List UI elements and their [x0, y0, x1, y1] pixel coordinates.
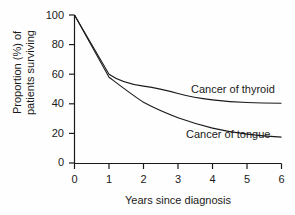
x-tick-label-0: 0 — [68, 174, 82, 185]
y-tick-label-0: 0 — [38, 157, 64, 168]
x-axis-title: Years since diagnosis — [74, 194, 282, 206]
y-tick-label-100: 100 — [38, 10, 64, 21]
x-tick-label-2: 2 — [137, 174, 151, 185]
x-axis-ticks — [75, 164, 282, 170]
x-tick-label-4: 4 — [206, 174, 220, 185]
y-axis-ticks — [69, 15, 75, 163]
series-label-tongue: Cancer of tongue — [186, 128, 270, 140]
series-label-thyroid: Cancer of thyroid — [191, 83, 275, 95]
y-axis-title-line1: Proportion (%) of — [11, 0, 24, 148]
x-tick-label-5: 5 — [240, 174, 254, 185]
y-axis-title-line2: patients surviving — [23, 0, 36, 148]
y-tick-label-80: 80 — [38, 39, 64, 50]
y-tick-label-40: 40 — [38, 98, 64, 109]
x-tick-label-1: 1 — [102, 174, 116, 185]
y-axis-title: Proportion (%) of patients surviving — [11, 0, 36, 148]
x-tick-label-3: 3 — [171, 174, 185, 185]
survival-curve-chart: 100 80 60 40 20 0 0 1 2 3 4 5 6 Years si… — [0, 0, 295, 215]
x-tick-label-6: 6 — [275, 174, 289, 185]
y-tick-label-60: 60 — [38, 69, 64, 80]
series-line-tongue — [75, 15, 282, 137]
y-tick-label-20: 20 — [38, 128, 64, 139]
